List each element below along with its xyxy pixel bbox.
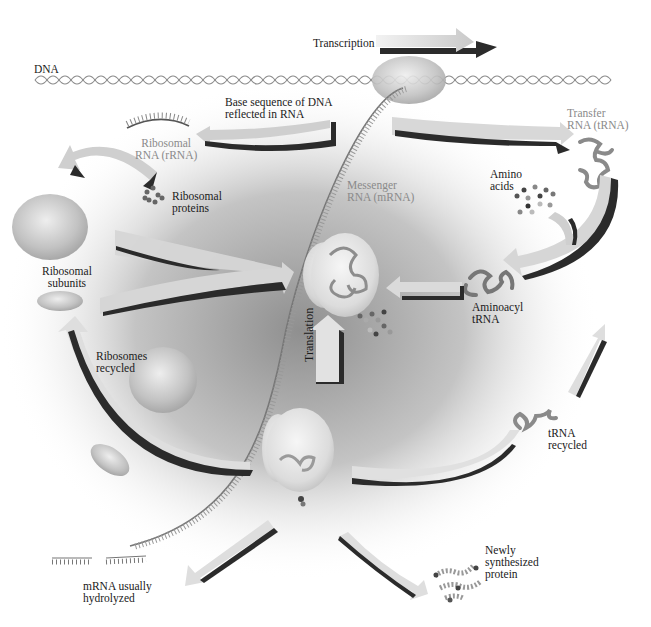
label-translation: Translation: [303, 308, 315, 362]
label-base-sequence: Base sequence of DNA reflected in RNA: [225, 96, 333, 120]
label-ribosomal-subunits: Ribosomal subunits: [42, 265, 92, 289]
diagram-graphics: [0, 0, 651, 627]
large-subunit: [12, 194, 88, 260]
label-aminoacyl-trna: Aminoacyl tRNA: [472, 301, 523, 325]
label-transfer-rna: Transfer RNA (tRNA): [567, 107, 629, 131]
label-transcription: Transcription: [313, 37, 375, 49]
label-dna: DNA: [34, 63, 59, 75]
rna-polymerase: [372, 56, 446, 104]
label-newly-synthesized-protein: Newly synthesized protein: [485, 544, 539, 580]
label-ribosomal-proteins: Ribosomal proteins: [172, 190, 222, 214]
mrna-fragments: [52, 556, 146, 562]
protein-chain: [434, 566, 481, 603]
label-messenger-rna: Messenger RNA (mRNA): [347, 179, 414, 203]
small-subunit: [37, 291, 83, 311]
label-trna-recycled: tRNA recycled: [548, 427, 587, 451]
protein-synthesis-diagram: DNA Transcription Base sequence of DNA r…: [0, 0, 651, 627]
label-amino-acids: Amino acids: [490, 168, 522, 192]
label-ribosomal-rna: Ribosomal RNA (rRNA): [135, 137, 197, 161]
label-mrna-hydrolyzed: mRNA usually hydrolyzed: [83, 580, 152, 604]
label-ribosomes-recycled: Ribosomes recycled: [96, 350, 147, 374]
transcription-arrow: [376, 28, 497, 58]
